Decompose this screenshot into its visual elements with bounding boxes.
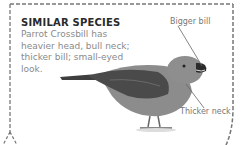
neck-annotation: Thicker neck [180,107,231,116]
species-description: Parrot Crossbill has heavier head, bull … [21,29,131,75]
section-title: SIMILAR SPECIES [21,17,120,28]
bill-annotation: Bigger bill [170,17,210,26]
